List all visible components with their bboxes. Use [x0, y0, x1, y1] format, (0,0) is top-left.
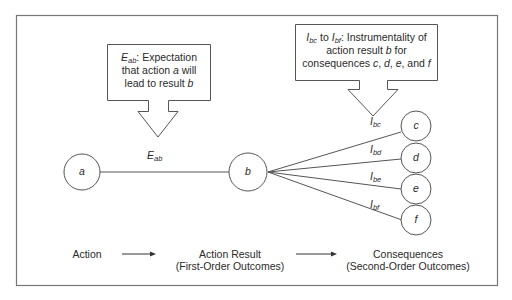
instrumentality-callout-text: Ibc to Ibf: Instrumentality of action re… [295, 31, 438, 70]
edge-label-bc: Ibc [370, 115, 381, 127]
node-f-label: f [406, 213, 426, 225]
edge-label-ab: Eab [147, 149, 162, 161]
node-e-label: e [406, 182, 426, 194]
edge-b-f [268, 172, 402, 220]
footer-stage-action-result: Action Result (First-Order Outcomes) [170, 248, 290, 272]
edge-label-bd: Ibd [370, 143, 381, 155]
node-c-label: c [406, 119, 426, 131]
expectation-callout-text: Eab: Expectation that action a will lead… [107, 51, 211, 90]
footer-stage-action: Action [62, 248, 112, 260]
node-b-label: b [238, 165, 258, 177]
footer-stage-consequences: Consequences (Second-Order Outcomes) [343, 248, 473, 272]
expectation-symbol: E [121, 51, 128, 63]
edge-label-be: Ibe [370, 170, 381, 182]
edge-label-bf: Ibf [370, 198, 379, 210]
node-a-label: a [72, 165, 92, 177]
node-d-label: d [406, 151, 426, 163]
